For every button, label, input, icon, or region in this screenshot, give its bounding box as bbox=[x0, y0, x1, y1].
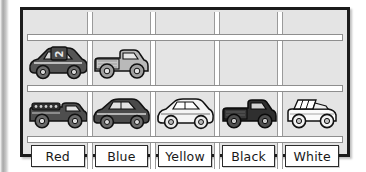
cell-black-3[interactable] bbox=[217, 12, 281, 34]
category-label-box: Black bbox=[222, 145, 275, 167]
category-label-box: Yellow bbox=[158, 145, 211, 167]
pictograph-chart: 2 bbox=[20, 7, 350, 157]
category-yellow[interactable]: Yellow bbox=[153, 143, 217, 169]
cell-white-3[interactable] bbox=[280, 12, 344, 34]
cell-black-2[interactable] bbox=[217, 41, 281, 85]
svg-text:2: 2 bbox=[53, 50, 64, 57]
cell-white-2[interactable] bbox=[280, 41, 344, 85]
pickup-truck-icon bbox=[90, 45, 152, 81]
chart-row-2: 2 bbox=[26, 41, 344, 85]
chart-grid: 2 bbox=[23, 10, 347, 154]
cell-blue-3[interactable] bbox=[90, 12, 154, 34]
row-separator-bar-bottom bbox=[27, 136, 343, 143]
cell-white-1[interactable] bbox=[280, 92, 344, 136]
page-edge-stripe bbox=[0, 0, 9, 172]
row-separator-bar-middle bbox=[27, 85, 343, 92]
cell-yellow-3[interactable] bbox=[153, 12, 217, 34]
cell-red-3[interactable] bbox=[26, 12, 90, 34]
cell-yellow-1[interactable] bbox=[153, 92, 217, 136]
cell-yellow-2[interactable] bbox=[153, 41, 217, 85]
convertible-jeep-icon bbox=[282, 97, 342, 131]
category-white[interactable]: White bbox=[280, 143, 344, 169]
cell-blue-1[interactable] bbox=[90, 92, 154, 136]
category-label-box: White bbox=[285, 145, 338, 167]
sedan-icon bbox=[154, 97, 216, 131]
category-label-box: Red bbox=[31, 145, 84, 167]
chart-row-3 bbox=[26, 12, 344, 34]
cell-black-1[interactable] bbox=[217, 92, 281, 136]
cell-red-2[interactable]: 2 bbox=[26, 41, 90, 85]
category-black[interactable]: Black bbox=[217, 143, 281, 169]
row-separator-bar-top bbox=[27, 34, 343, 41]
category-red[interactable]: Red bbox=[26, 143, 90, 169]
category-label-box: Blue bbox=[95, 145, 148, 167]
chart-row-1 bbox=[26, 92, 344, 136]
cell-red-1[interactable] bbox=[26, 92, 90, 136]
category-label-row: Red Blue Yellow Black White bbox=[26, 143, 344, 169]
race-car-number-2-icon: 2 bbox=[26, 45, 90, 81]
pickup-truck-icon bbox=[218, 97, 280, 131]
cell-blue-2[interactable] bbox=[90, 41, 154, 85]
fire-truck-icon bbox=[26, 97, 90, 131]
category-blue[interactable]: Blue bbox=[90, 143, 154, 169]
sedan-icon bbox=[90, 97, 152, 131]
